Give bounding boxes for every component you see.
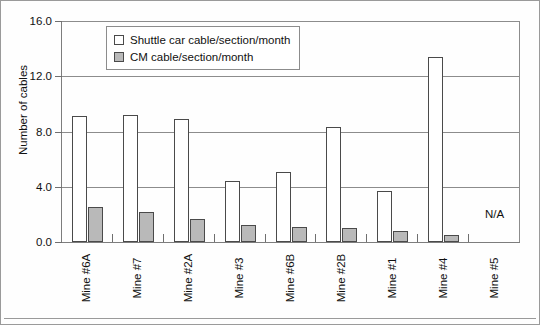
- bar-shuttle-car[interactable]: [174, 119, 189, 242]
- y-tick-16: [55, 21, 62, 22]
- x-tick-label: Mine #2B: [335, 254, 347, 303]
- x-tick-label: Mine #3: [233, 258, 245, 299]
- legend-label: Shuttle car cable/section/month: [130, 34, 290, 46]
- bar-cm[interactable]: [241, 225, 256, 242]
- bar-shuttle-car[interactable]: [72, 116, 87, 242]
- bar-category-mine-5[interactable]: N/A: [469, 21, 520, 242]
- y-tick-label: 0.0: [36, 236, 52, 248]
- bar-cm[interactable]: [444, 235, 459, 242]
- chart-figure: Number of cables 0.04.08.012.016.0 N/A S…: [0, 0, 540, 325]
- x-tick-label: Mine #1: [386, 258, 398, 299]
- bar-cm[interactable]: [139, 212, 154, 242]
- x-tick-label: Mine #7: [131, 258, 143, 299]
- x-axis-tick-labels: Mine #6AMine #7Mine #2AMine #3Mine #6BMi…: [61, 244, 519, 316]
- y-tick-8: [55, 132, 62, 133]
- x-tick-label: Mine #4: [437, 258, 449, 299]
- figure-bottom-rule: [4, 318, 536, 319]
- y-tick-0: [55, 242, 62, 243]
- y-axis-title: Number of cables: [17, 30, 29, 190]
- legend-swatch-cm: [114, 52, 124, 62]
- bar-category-mine-4[interactable]: [418, 21, 469, 242]
- x-tick-label: Mine #5: [488, 258, 500, 299]
- x-label-cell: Mine #2B: [315, 244, 366, 316]
- bar-cm[interactable]: [190, 219, 205, 242]
- y-tick-label: 8.0: [36, 126, 52, 138]
- x-label-cell: Mine #7: [112, 244, 163, 316]
- x-label-cell: Mine #2A: [163, 244, 214, 316]
- x-tick-label: Mine #6B: [284, 254, 296, 303]
- y-tick-label: 16.0: [30, 15, 52, 27]
- x-label-cell: Mine #5: [468, 244, 519, 316]
- y-tick-4: [55, 187, 62, 188]
- chart-legend: Shuttle car cable/section/monthCM cable/…: [106, 26, 300, 70]
- bar-shuttle-car[interactable]: [225, 181, 240, 242]
- bar-shuttle-car[interactable]: [428, 57, 443, 242]
- bar-cm[interactable]: [393, 231, 408, 242]
- bar-shuttle-car[interactable]: [123, 115, 138, 242]
- x-tick-label: Mine #6A: [80, 254, 92, 303]
- bar-category-mine-1[interactable]: [367, 21, 418, 242]
- legend-item-2[interactable]: CM cable/section/month: [114, 48, 290, 65]
- x-label-cell: Mine #4: [417, 244, 468, 316]
- bar-shuttle-car[interactable]: [276, 172, 291, 242]
- na-annotation: N/A: [485, 208, 504, 220]
- bar-shuttle-car[interactable]: [326, 127, 341, 242]
- bar-cm[interactable]: [88, 207, 103, 242]
- x-label-cell: Mine #3: [214, 244, 265, 316]
- y-tick-12: [55, 76, 62, 77]
- bar-cm[interactable]: [342, 228, 357, 242]
- legend-item-1[interactable]: Shuttle car cable/section/month: [114, 31, 290, 48]
- x-label-cell: Mine #6A: [61, 244, 112, 316]
- legend-label: CM cable/section/month: [130, 51, 253, 63]
- x-label-cell: Mine #1: [366, 244, 417, 316]
- x-tick-label: Mine #2A: [182, 254, 194, 303]
- bar-category-mine-2b[interactable]: [316, 21, 367, 242]
- y-tick-label: 12.0: [30, 70, 52, 82]
- bar-shuttle-car[interactable]: [377, 191, 392, 242]
- bar-cm[interactable]: [292, 227, 307, 242]
- x-label-cell: Mine #6B: [265, 244, 316, 316]
- legend-swatch-shuttle: [114, 35, 124, 45]
- y-tick-label: 4.0: [36, 181, 52, 193]
